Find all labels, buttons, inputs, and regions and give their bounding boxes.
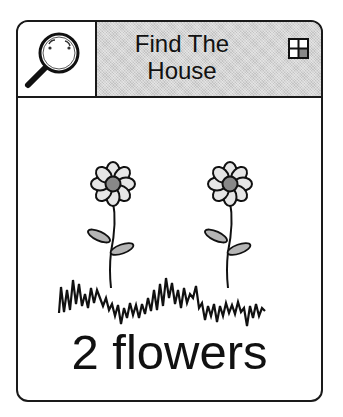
flashcard: Find The House bbox=[16, 20, 323, 402]
card-title: Find The House bbox=[97, 30, 267, 84]
card-header: Find The House bbox=[18, 22, 321, 98]
caption: 2 flowers bbox=[18, 324, 321, 380]
four-square-grid-icon[interactable] bbox=[288, 38, 309, 59]
flower-scene bbox=[18, 98, 321, 328]
flower-2 bbox=[203, 162, 252, 288]
grass-icon bbox=[59, 278, 265, 326]
card-body: 2 flowers bbox=[18, 98, 321, 400]
card-title-line1: Find The bbox=[97, 30, 267, 57]
magnifying-glass-icon bbox=[18, 22, 95, 96]
header-title-cell: Find The House bbox=[97, 22, 321, 96]
flower-1 bbox=[86, 162, 135, 288]
card-title-line2: House bbox=[97, 57, 267, 84]
header-icon-cell bbox=[18, 22, 97, 96]
